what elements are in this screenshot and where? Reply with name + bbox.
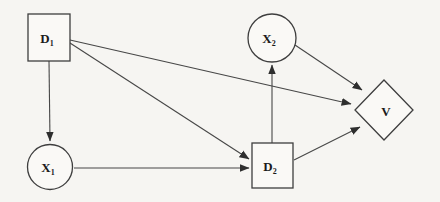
diagram-canvas: D1 X1 X2 D2 V (0, 0, 440, 202)
edge-d2-to-v (294, 127, 360, 160)
node-x2: X2 (248, 14, 296, 62)
node-v: V (355, 80, 413, 140)
edge-d1-to-x1 (49, 61, 50, 141)
edge-d1-to-v (70, 40, 351, 104)
edge-x2-to-v (295, 45, 362, 90)
node-d1: D1 (28, 14, 70, 61)
scanned-figure: D1 X1 X2 D2 V (0, 0, 440, 202)
node-x1: X1 (28, 145, 73, 190)
node-v-label: V (381, 104, 391, 119)
node-d2: D2 (252, 143, 293, 188)
circle-shape-x2 (248, 14, 296, 62)
